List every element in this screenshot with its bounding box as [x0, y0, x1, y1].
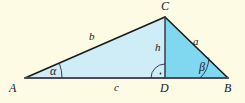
vertex-label-A: A: [9, 82, 16, 94]
vertex-label-C: C: [161, 0, 169, 12]
side-label-c: c: [114, 82, 119, 93]
vertex-label-B: B: [224, 82, 231, 94]
angle-label-alpha: α: [50, 65, 56, 77]
right-angle-dot-at-D: [160, 73, 162, 75]
geometry-figure: A B C D b a c h α β: [0, 0, 245, 103]
side-label-b: b: [89, 31, 95, 42]
side-label-a: a: [193, 36, 199, 47]
vertex-label-D: D: [160, 82, 169, 94]
triangle-diagram-svg: [0, 0, 245, 103]
angle-label-beta: β: [199, 61, 205, 73]
side-label-h: h: [155, 42, 161, 53]
